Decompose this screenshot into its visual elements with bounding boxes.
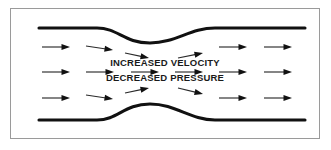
flow-arrow-head: [104, 95, 113, 101]
flow-arrow-head: [239, 44, 248, 50]
venturi-diagram-figure: INCREASED VELOCITY DECREASED PRESSURE: [0, 0, 331, 150]
pipe-bottom-wall: [39, 104, 305, 120]
flow-arrow-shaft: [125, 89, 142, 93]
flow-arrow-head: [239, 69, 248, 75]
flow-arrow-head: [194, 89, 203, 95]
flow-arrow-head: [104, 46, 113, 52]
flow-arrow-head: [140, 87, 149, 93]
decreased-pressure-label: DECREASED PRESSURE: [106, 72, 224, 83]
flow-arrow-shaft: [178, 88, 196, 92]
flow-arrow-head: [239, 95, 248, 101]
flow-arrow-head: [62, 44, 71, 50]
flow-arrow-head: [284, 69, 293, 75]
pipe-top-wall: [39, 28, 305, 43]
increased-velocity-label: INCREASED VELOCITY: [110, 57, 220, 68]
annotation-label-group: INCREASED VELOCITY DECREASED PRESSURE: [106, 57, 224, 83]
flow-arrow-head: [62, 69, 71, 75]
flow-arrow-shaft: [86, 46, 106, 49]
venturi-diagram-canvas: INCREASED VELOCITY DECREASED PRESSURE: [0, 0, 331, 150]
flow-arrow-head: [284, 95, 293, 101]
flow-arrow-head: [284, 44, 293, 50]
flow-arrow-shaft: [86, 95, 106, 98]
flow-arrow-head: [62, 95, 71, 101]
